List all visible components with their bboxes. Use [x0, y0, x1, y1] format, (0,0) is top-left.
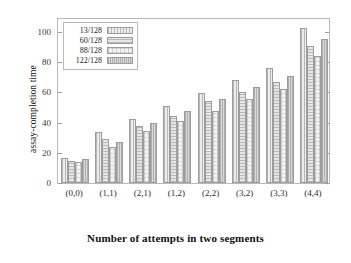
- y-tick-label: 0: [47, 178, 52, 188]
- x-axis-title: Number of attempts in two segments: [0, 232, 351, 244]
- x-tick-label: (1,1): [100, 188, 117, 198]
- y-tick-mark: [58, 183, 62, 184]
- bar: [75, 162, 82, 183]
- bar: [300, 28, 307, 183]
- bar: [177, 121, 184, 183]
- chart-legend: 13/12860/12888/128122/128: [63, 22, 138, 70]
- bar: [253, 87, 260, 183]
- legend-swatch: [107, 37, 133, 44]
- bar: [287, 76, 294, 183]
- bar: [95, 132, 102, 183]
- bar: [116, 142, 123, 184]
- bar: [212, 111, 219, 183]
- y-tick-label: 80: [42, 57, 51, 67]
- bar: [170, 116, 177, 183]
- bar: [280, 89, 287, 183]
- x-tick-label: (4,4): [304, 188, 321, 198]
- legend-swatch: [107, 47, 133, 54]
- bar-group: [297, 19, 331, 183]
- bar: [163, 106, 170, 183]
- x-tick-label: (3,3): [270, 188, 287, 198]
- y-axis-title: assay-completion time: [28, 24, 38, 194]
- bar: [321, 39, 328, 183]
- bar: [102, 139, 109, 183]
- y-tick-label: 60: [42, 87, 51, 97]
- y-tick-label: 100: [38, 27, 52, 37]
- bar: [109, 147, 116, 183]
- bar-group: [195, 19, 229, 183]
- y-tick-mark-right: [325, 183, 329, 184]
- bar: [82, 159, 89, 183]
- y-tick-label: 40: [42, 118, 51, 128]
- bar: [232, 80, 239, 183]
- bar-group: [160, 19, 194, 183]
- x-tick-label: (1,2): [168, 188, 185, 198]
- bar: [136, 126, 143, 183]
- bar: [314, 56, 321, 183]
- bar: [61, 158, 68, 183]
- legend-label: 122/128: [68, 56, 102, 65]
- bar: [307, 46, 314, 183]
- bar: [129, 119, 136, 183]
- x-tick-label: (3,2): [236, 188, 253, 198]
- legend-item: 13/128: [68, 26, 133, 35]
- x-tick-label: (2,1): [134, 188, 151, 198]
- bar: [219, 99, 226, 184]
- bar: [198, 93, 205, 183]
- bar: [246, 99, 253, 183]
- bar: [150, 123, 157, 183]
- bar: [143, 131, 150, 183]
- bar: [205, 101, 212, 183]
- bar: [266, 68, 273, 183]
- bar-group: [229, 19, 263, 183]
- legend-label: 13/128: [68, 26, 102, 35]
- bar: [68, 161, 75, 183]
- bar: [239, 92, 246, 183]
- x-tick-label: (0,0): [65, 188, 82, 198]
- legend-item: 122/128: [68, 56, 133, 65]
- legend-label: 88/128: [68, 46, 102, 55]
- legend-item: 60/128: [68, 36, 133, 45]
- x-tick-label: (2,2): [202, 188, 219, 198]
- legend-swatch: [107, 57, 133, 64]
- legend-swatch: [107, 27, 133, 34]
- bar-group: [263, 19, 297, 183]
- y-tick-label: 20: [42, 148, 51, 158]
- bar: [273, 82, 280, 183]
- bar: [184, 111, 191, 183]
- chart-figure: assay-completion time 020406080100 13/12…: [0, 0, 351, 263]
- legend-label: 60/128: [68, 36, 102, 45]
- legend-item: 88/128: [68, 46, 133, 55]
